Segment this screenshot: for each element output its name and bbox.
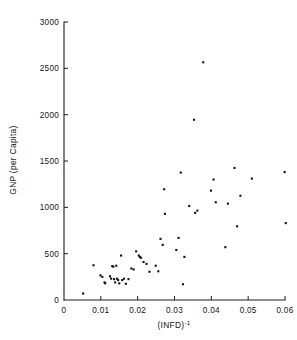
data-point (183, 256, 185, 258)
data-point (104, 282, 106, 284)
data-point (121, 279, 123, 281)
data-point (178, 237, 180, 239)
y-tick-label: 2000 (40, 111, 59, 120)
y-tick-label: 500 (45, 250, 60, 259)
data-point (113, 278, 115, 280)
data-point (110, 278, 112, 280)
data-points-group (82, 61, 287, 294)
y-tick-label: 1000 (40, 203, 59, 212)
data-point (155, 265, 157, 267)
data-point (148, 271, 150, 273)
y-axis-title: GNP (per Capita) (8, 125, 18, 194)
axes-group (64, 22, 285, 300)
data-point (182, 283, 184, 285)
data-point (202, 61, 204, 63)
data-point (163, 188, 165, 190)
data-point (180, 172, 182, 174)
data-point (194, 212, 196, 214)
data-point (215, 201, 217, 203)
data-point (212, 178, 214, 180)
data-point (117, 279, 119, 281)
data-point (164, 213, 166, 215)
x-tick-label: 0.01 (92, 306, 109, 315)
data-point (193, 119, 195, 121)
x-tick-label: 0.02 (129, 306, 146, 315)
data-point (196, 210, 198, 212)
y-tick-label: 3000 (40, 18, 59, 27)
x-tick-label: 0 (62, 306, 67, 315)
data-point (227, 203, 229, 205)
data-point (118, 282, 120, 284)
x-axis-title-exponent: -1 (184, 319, 190, 326)
x-axis-title-base: (INFD) (157, 320, 184, 330)
data-point (109, 275, 111, 277)
data-point (233, 167, 235, 169)
data-point (143, 261, 145, 263)
data-point (127, 278, 129, 280)
data-point (236, 225, 238, 227)
data-point (162, 244, 164, 246)
data-point (130, 267, 132, 269)
x-axis-title: (INFD)-1 (157, 319, 190, 330)
data-point (115, 265, 117, 267)
data-point (140, 257, 142, 259)
x-axis-ticks: 00.010.020.030.040.050.06 (62, 296, 294, 315)
data-point (285, 222, 287, 224)
data-point (175, 249, 177, 251)
data-point (239, 195, 241, 197)
data-point (120, 254, 122, 256)
data-point (133, 268, 135, 270)
x-tick-label: 0.05 (240, 306, 257, 315)
y-tick-label: 0 (54, 296, 59, 305)
data-point (251, 178, 253, 180)
data-point (92, 264, 94, 266)
data-point (188, 205, 190, 207)
data-point (145, 263, 147, 265)
data-point (210, 190, 212, 192)
data-point (224, 246, 226, 248)
scatter-plot-figure: 050010001500200025003000 00.010.020.030.… (0, 0, 297, 340)
data-point (114, 281, 116, 283)
data-point (123, 278, 125, 280)
data-point (99, 274, 101, 276)
data-point (125, 283, 127, 285)
y-tick-label: 2500 (40, 64, 59, 73)
data-point (101, 276, 103, 278)
x-tick-label: 0.06 (277, 306, 294, 315)
data-point (112, 266, 114, 268)
plot-canvas: 050010001500200025003000 00.010.020.030.… (0, 0, 297, 340)
data-point (284, 171, 286, 173)
data-point (157, 270, 159, 272)
x-tick-label: 0.04 (203, 306, 220, 315)
x-tick-label: 0.03 (166, 306, 183, 315)
y-tick-label: 1500 (40, 157, 59, 166)
data-point (135, 250, 137, 252)
data-point (159, 238, 161, 240)
data-point (82, 292, 84, 294)
